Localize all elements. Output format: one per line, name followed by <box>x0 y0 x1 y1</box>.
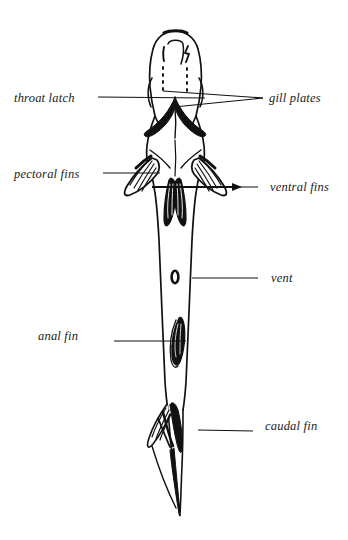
label-vent: vent <box>271 272 293 285</box>
belly-mid-seam <box>175 140 176 176</box>
fish-illustration <box>0 0 348 540</box>
label-caudal-fin: caudal fin <box>265 420 317 433</box>
snout-tip-shade <box>164 31 187 33</box>
label-anal-fin: anal fin <box>38 330 78 343</box>
leader-caudal-fin <box>198 430 253 431</box>
isthmus-line <box>175 107 176 138</box>
ventral-fin-right <box>174 178 186 226</box>
anatomy-figure: throat latch gill plates pectoral fins v… <box>0 0 348 540</box>
barbel-marks-left <box>163 47 164 90</box>
leader-throat-latch <box>98 97 205 98</box>
leader-gill-plates-a <box>163 91 263 98</box>
label-throat-latch: throat latch <box>14 92 75 105</box>
label-pectoral-fins: pectoral fins <box>14 168 79 181</box>
barbel-marks-right <box>185 46 189 91</box>
label-ventral-fins: ventral fins <box>270 181 329 194</box>
label-gill-plates: gill plates <box>269 92 321 105</box>
leader-lines <box>98 91 263 431</box>
mouth-curve <box>168 40 183 64</box>
vent-opening <box>172 271 179 283</box>
leader-ventral-fins-arrowhead <box>232 183 242 191</box>
anal-fin <box>170 317 185 367</box>
leader-gill-plates-b <box>174 98 263 107</box>
